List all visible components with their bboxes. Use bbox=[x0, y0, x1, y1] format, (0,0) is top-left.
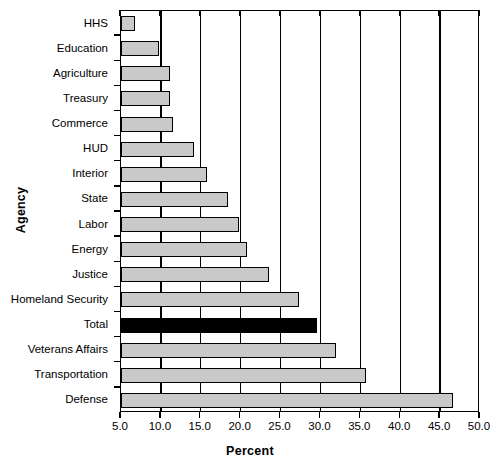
x-axis-tick bbox=[119, 412, 120, 418]
category-tick bbox=[114, 286, 120, 287]
category-tick bbox=[114, 110, 120, 111]
bar-justice[interactable] bbox=[121, 267, 269, 282]
category-tick bbox=[114, 235, 120, 236]
category-axis-labels: HHSEducationAgricultureTreasuryCommerceH… bbox=[0, 10, 114, 412]
category-tick bbox=[114, 135, 120, 136]
bar-transportation[interactable] bbox=[121, 368, 366, 383]
x-axis-tick bbox=[478, 412, 479, 418]
category-tick bbox=[114, 210, 120, 211]
bar-homeland-security[interactable] bbox=[121, 292, 299, 307]
x-axis-title: Percent bbox=[0, 444, 500, 458]
x-axis-tick bbox=[399, 412, 400, 418]
category-label-education: Education bbox=[57, 41, 108, 55]
category-tick bbox=[114, 361, 120, 362]
x-axis-tick bbox=[319, 412, 320, 418]
x-axis-title-text: Percent bbox=[226, 444, 274, 458]
category-tick bbox=[114, 336, 120, 337]
category-label-interior: Interior bbox=[72, 166, 108, 180]
category-tick bbox=[114, 160, 120, 161]
category-label-veterans-affairs: Veterans Affairs bbox=[28, 342, 108, 356]
category-label-total: Total bbox=[84, 317, 108, 331]
category-tick bbox=[114, 34, 120, 35]
gridline bbox=[400, 11, 401, 411]
x-axis-tick-label: 35.0 bbox=[337, 420, 381, 432]
category-label-energy: Energy bbox=[72, 242, 108, 256]
category-label-commerce: Commerce bbox=[52, 116, 108, 130]
x-axis-tick-top bbox=[239, 10, 240, 16]
bar-energy[interactable] bbox=[121, 242, 247, 257]
x-axis-tick bbox=[239, 412, 240, 418]
x-axis-tick-label: 50.0 bbox=[457, 420, 500, 432]
category-label-transportation: Transportation bbox=[34, 367, 108, 381]
bar-labor[interactable] bbox=[121, 217, 239, 232]
x-axis-tick-label: 25.0 bbox=[258, 420, 302, 432]
bar-hhs[interactable] bbox=[121, 16, 135, 31]
category-label-hhs: HHS bbox=[84, 16, 108, 30]
bar-interior[interactable] bbox=[121, 167, 207, 182]
category-tick bbox=[114, 261, 120, 262]
gridline bbox=[360, 11, 361, 411]
category-label-treasury: Treasury bbox=[63, 91, 108, 105]
x-axis-tick-top bbox=[359, 10, 360, 16]
x-axis-tick-top bbox=[159, 10, 160, 16]
bar-commerce[interactable] bbox=[121, 117, 173, 132]
x-axis-tick bbox=[279, 412, 280, 418]
category-label-state: State bbox=[81, 191, 108, 205]
x-axis-tick-label: 45.0 bbox=[417, 420, 461, 432]
category-tick bbox=[114, 386, 120, 387]
x-axis-tick-label: 20.0 bbox=[218, 420, 262, 432]
category-label-hud: HUD bbox=[83, 141, 108, 155]
x-axis-tick-label: 10.0 bbox=[138, 420, 182, 432]
category-tick bbox=[114, 311, 120, 312]
x-axis-tick-top bbox=[119, 10, 120, 16]
gridline bbox=[439, 11, 440, 411]
category-tick bbox=[114, 185, 120, 186]
category-label-homeland-security: Homeland Security bbox=[11, 292, 108, 306]
x-axis-tick bbox=[359, 412, 360, 418]
x-axis-tick-label: 15.0 bbox=[178, 420, 222, 432]
x-axis-tick-top bbox=[319, 10, 320, 16]
x-axis-tick-top bbox=[199, 10, 200, 16]
bar-defense[interactable] bbox=[121, 393, 453, 408]
category-tick bbox=[114, 85, 120, 86]
category-label-agriculture: Agriculture bbox=[53, 66, 108, 80]
bar-chart: Agency HHSEducationAgricultureTreasuryCo… bbox=[0, 0, 500, 466]
category-label-labor: Labor bbox=[79, 217, 108, 231]
bar-agriculture[interactable] bbox=[121, 66, 170, 81]
bar-veterans-affairs[interactable] bbox=[121, 343, 336, 358]
x-axis-tick-label: 40.0 bbox=[377, 420, 421, 432]
bar-treasury[interactable] bbox=[121, 91, 170, 106]
category-label-justice: Justice bbox=[72, 267, 108, 281]
bar-hud[interactable] bbox=[121, 142, 194, 157]
x-axis-tick-top bbox=[438, 10, 439, 16]
x-axis-tick bbox=[199, 412, 200, 418]
category-label-defense: Defense bbox=[65, 392, 108, 406]
x-axis-tick-top bbox=[399, 10, 400, 16]
x-axis-tick-label: 5.0 bbox=[98, 420, 142, 432]
x-axis-tick bbox=[159, 412, 160, 418]
x-axis-tick-label: 30.0 bbox=[297, 420, 341, 432]
bar-education[interactable] bbox=[121, 41, 159, 56]
x-axis-tick-top bbox=[478, 10, 479, 16]
x-axis-tick-top bbox=[279, 10, 280, 16]
bar-state[interactable] bbox=[121, 192, 228, 207]
x-axis-tick bbox=[438, 412, 439, 418]
category-tick bbox=[114, 60, 120, 61]
plot-area bbox=[120, 10, 479, 412]
bar-total[interactable] bbox=[121, 318, 317, 333]
